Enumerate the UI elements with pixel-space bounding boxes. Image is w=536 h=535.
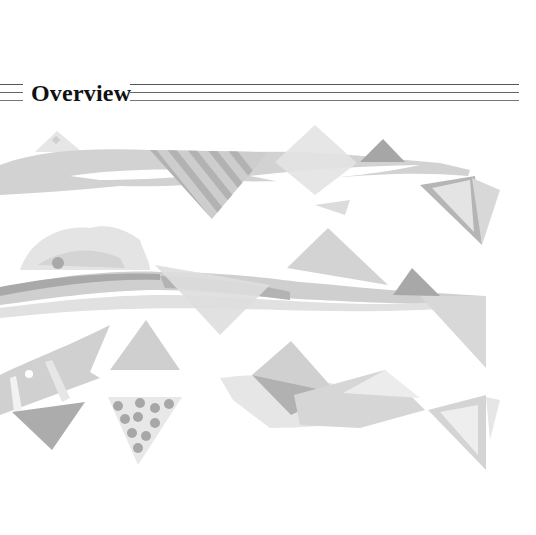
lower-right-group [220, 341, 500, 470]
abstract-illustration [0, 115, 536, 485]
heading-rule-left [0, 84, 23, 102]
lower-left-group [0, 320, 182, 465]
top-band-group [0, 125, 500, 245]
section-title: Overview [31, 79, 131, 107]
section-heading: Overview [0, 78, 536, 110]
heading-rule-right [130, 84, 519, 102]
